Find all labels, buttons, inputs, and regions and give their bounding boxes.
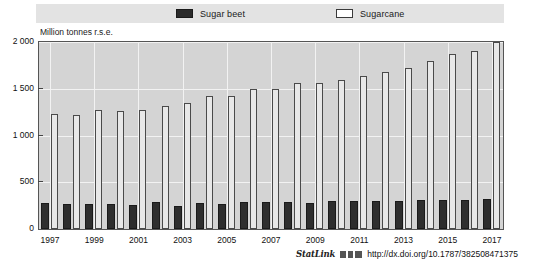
x-axis-tick-label: 2011	[350, 235, 368, 245]
bar-sugarcane	[228, 96, 235, 229]
bar-sugarcane	[139, 110, 146, 229]
bar-group	[260, 42, 282, 229]
bar-sugarcane	[471, 51, 478, 229]
bar-sugar-beet	[439, 200, 447, 229]
bar-sugarcane	[493, 42, 500, 229]
y-axis: 05001 0001 5002 000	[0, 41, 34, 230]
bar-sugar-beet	[240, 202, 248, 229]
statlink-url[interactable]: http://dx.doi.org/10.1787/382508471375	[367, 249, 518, 259]
bar-group	[370, 42, 392, 229]
x-axis-tick-label: 2001	[129, 235, 148, 245]
legend-swatch-icon-sugarcane	[336, 9, 353, 18]
x-axis-tick-label: 2017	[482, 235, 501, 245]
y-axis-tick-label: 0	[29, 223, 34, 233]
bar-sugar-beet	[417, 200, 425, 229]
bar-group	[83, 42, 105, 229]
bar-group	[348, 42, 370, 229]
bar-sugarcane	[427, 61, 434, 229]
bar-sugar-beet	[372, 201, 380, 229]
bar-sugarcane	[184, 103, 191, 229]
legend-item-sugarcane: Sugarcane	[336, 9, 404, 19]
legend-swatch-icon-sugar-beet	[176, 9, 193, 18]
bar-sugarcane	[51, 114, 58, 229]
bar-group	[481, 42, 503, 229]
bar-sugar-beet	[174, 206, 182, 229]
statlink-label: StatLink	[296, 249, 335, 259]
x-axis: 1997199920012003200520072009201120132015…	[38, 232, 504, 248]
bar-group	[282, 42, 304, 229]
x-axis-tick-label: 2003	[173, 235, 192, 245]
x-axis-tick-label: 1997	[41, 235, 60, 245]
legend-label-sugarcane: Sugarcane	[360, 9, 404, 19]
y-axis-tick-label: 1 500	[13, 83, 34, 93]
plot-area	[38, 41, 504, 230]
bar-sugarcane	[73, 115, 80, 229]
bar-sugar-beet	[328, 201, 336, 229]
y-axis-tick-mark	[38, 88, 43, 89]
bar-group	[39, 42, 61, 229]
bar-group	[304, 42, 326, 229]
bar-group	[437, 42, 459, 229]
bar-group	[238, 42, 260, 229]
bar-sugarcane	[162, 106, 169, 229]
bar-sugarcane	[338, 80, 345, 229]
bar-group	[326, 42, 348, 229]
bar-sugar-beet	[395, 201, 403, 229]
bar-group	[105, 42, 127, 229]
bar-sugarcane	[206, 96, 213, 229]
bar-sugarcane	[95, 110, 102, 229]
y-axis-title: Million tonnes r.s.e.	[40, 27, 113, 37]
bar-sugar-beet	[152, 202, 160, 229]
bar-sugarcane	[360, 76, 367, 229]
chart-legend: Sugar beet Sugarcane	[36, 4, 504, 23]
x-axis-tick-label: 1999	[85, 235, 104, 245]
bar-series-layer	[39, 42, 503, 229]
x-axis-tick-label: 2007	[262, 235, 281, 245]
bar-sugarcane	[250, 89, 257, 229]
bar-sugar-beet	[129, 205, 137, 229]
x-axis-tick-label: 2009	[306, 235, 325, 245]
x-axis-tick-label: 2005	[217, 235, 236, 245]
x-axis-tick-label: 2013	[394, 235, 413, 245]
y-axis-tick-mark	[38, 181, 43, 182]
bar-sugar-beet	[461, 200, 469, 229]
bar-sugarcane	[405, 68, 412, 229]
bar-sugar-beet	[350, 201, 358, 229]
bar-sugar-beet	[85, 204, 93, 229]
y-axis-tick-mark	[38, 135, 43, 136]
y-axis-tick-label: 500	[20, 176, 34, 186]
bar-group	[149, 42, 171, 229]
bar-group	[415, 42, 437, 229]
bar-sugarcane	[382, 72, 389, 229]
bar-sugar-beet	[107, 204, 115, 229]
bar-sugar-beet	[262, 202, 270, 229]
legend-item-sugar-beet: Sugar beet	[176, 9, 245, 19]
y-axis-tick-label: 1 000	[13, 130, 34, 140]
bar-group	[194, 42, 216, 229]
bar-group	[459, 42, 481, 229]
bar-sugar-beet	[306, 203, 314, 229]
bar-group	[61, 42, 83, 229]
bar-sugar-beet	[483, 199, 491, 229]
bar-sugar-beet	[196, 203, 204, 229]
bar-group	[127, 42, 149, 229]
legend-label-sugar-beet: Sugar beet	[200, 9, 245, 19]
bar-sugar-beet	[63, 204, 71, 229]
bar-sugarcane	[294, 83, 301, 229]
bar-group	[393, 42, 415, 229]
bar-group	[216, 42, 238, 229]
bar-sugarcane	[449, 54, 456, 229]
bar-group	[172, 42, 194, 229]
bar-sugarcane	[272, 89, 279, 229]
bar-sugar-beet	[218, 204, 226, 229]
statlink-footer: StatLink http://dx.doi.org/10.1787/38250…	[296, 249, 518, 259]
bar-sugarcane	[117, 111, 124, 229]
bar-sugar-beet	[41, 203, 49, 229]
bar-sugarcane	[316, 83, 323, 229]
x-axis-tick-label: 2015	[438, 235, 457, 245]
barcode-icon	[340, 251, 362, 258]
bar-sugar-beet	[284, 202, 292, 229]
y-axis-tick-label: 2 000	[13, 36, 34, 46]
